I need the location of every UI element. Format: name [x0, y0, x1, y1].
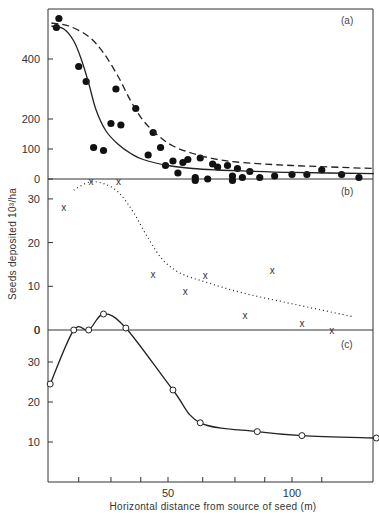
data-point: [169, 157, 176, 164]
data-point: [355, 174, 362, 181]
data-point: [107, 120, 114, 127]
x-axis: 50100: [79, 477, 322, 499]
y-tick-label: 0: [34, 173, 40, 185]
y-tick-label: 20: [28, 237, 40, 249]
data-point: [157, 144, 164, 151]
x-tick-label: 100: [283, 487, 301, 499]
fitted-curve: [51, 23, 373, 169]
data-point: [256, 174, 263, 181]
data-point: [254, 429, 260, 435]
data-point: [224, 162, 231, 169]
panel-a: [51, 15, 373, 184]
data-point: [101, 311, 107, 317]
y-tick-label: 30: [28, 193, 40, 205]
y-tick-label: 400: [22, 53, 40, 65]
data-point: [117, 121, 124, 128]
data-point: [123, 325, 129, 331]
data-point-x: x: [116, 176, 121, 187]
fitted-curve: [74, 182, 354, 317]
data-point: [174, 169, 181, 176]
y-tick-label: 0: [34, 324, 40, 336]
data-point-x: x: [151, 269, 156, 280]
panel-label-c: (c): [341, 339, 353, 350]
data-point: [86, 327, 92, 333]
panel-label-b: (b): [341, 186, 353, 197]
y-tick-label: 100: [22, 143, 40, 155]
data-point: [204, 175, 211, 182]
data-point-x: x: [299, 318, 304, 329]
data-point-x: x: [329, 325, 334, 336]
x-axis-title: Horizontal distance from source of seed …: [110, 501, 317, 512]
y-axis-title: Seeds deposited 10³/ha: [7, 188, 18, 300]
y-tick-label: 10: [28, 280, 40, 292]
data-point-x: x: [183, 286, 188, 297]
data-point-x: x: [61, 202, 66, 213]
data-point: [299, 433, 305, 439]
x-tick-label: 50: [162, 487, 174, 499]
panel-baselines: [48, 179, 373, 330]
data-point-x: x: [89, 176, 94, 187]
data-point: [197, 420, 203, 426]
data-point: [184, 156, 191, 163]
y-tick-label: 200: [22, 113, 40, 125]
y-tick-label: 10: [28, 436, 40, 448]
data-point: [55, 15, 62, 22]
data-point: [239, 174, 246, 181]
data-point: [100, 147, 107, 154]
fitted-curve: [50, 314, 376, 438]
data-point: [192, 177, 199, 184]
data-point: [271, 172, 278, 179]
data-point-x: x: [270, 265, 275, 276]
data-point: [145, 151, 152, 158]
data-point: [112, 85, 119, 92]
data-point: [338, 171, 345, 178]
data-point: [229, 172, 236, 179]
data-point: [170, 387, 176, 393]
data-point: [71, 327, 77, 333]
plot-frame: [48, 9, 373, 482]
data-point: [150, 129, 157, 136]
data-point-x: x: [242, 310, 247, 321]
data-point: [373, 435, 379, 441]
panel-label-a: (a): [341, 15, 353, 26]
seed-dispersal-figure: 010020040001020301020300 50100 xxxxxxxxx…: [0, 0, 379, 515]
y-tick-label: 30: [28, 356, 40, 368]
data-point: [90, 144, 97, 151]
data-point-x: x: [203, 270, 208, 281]
data-point: [47, 381, 53, 387]
data-point: [75, 63, 82, 70]
y-tick-label: 20: [28, 396, 40, 408]
